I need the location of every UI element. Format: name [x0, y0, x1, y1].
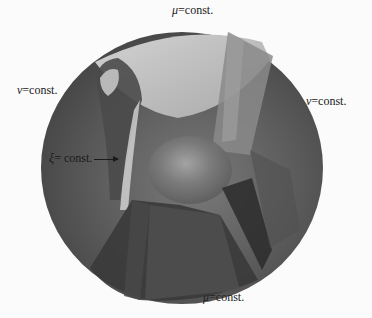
const-text: =const. — [209, 290, 244, 304]
const-text: = const. — [54, 151, 92, 165]
label-mu-const-top: μ=const. — [172, 3, 213, 18]
label-xi-const: ξ= const. — [49, 151, 118, 166]
arrow-right-icon — [94, 159, 118, 160]
const-text: =const. — [178, 3, 213, 17]
inner-core — [148, 136, 232, 204]
const-text: =const. — [311, 94, 346, 108]
const-text: =const. — [22, 83, 57, 97]
label-nu-const-right: ν=const. — [306, 94, 346, 109]
label-nu-const-left: ν=const. — [17, 83, 57, 98]
label-mu-const-bottom: μ=const. — [203, 290, 244, 305]
